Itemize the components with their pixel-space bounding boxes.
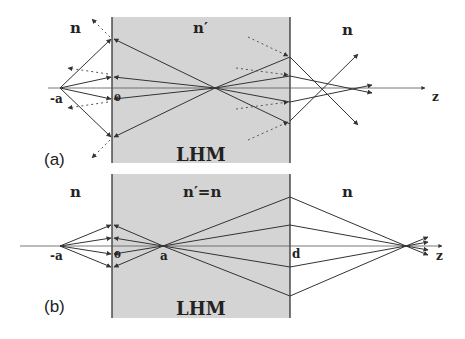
right-medium-label-b: n (342, 183, 353, 201)
panel-tag-b: (b) (44, 297, 65, 316)
left-medium-label-a: n (70, 19, 81, 37)
axis-label-a: z (432, 90, 439, 104)
right-medium-label-a: n (342, 21, 353, 39)
focus-label-b: a (160, 249, 168, 263)
panel-tag-a: (a) (44, 150, 65, 169)
lhm-lens-diagram: n n′ n LHM -a 0 z (a) (0, 0, 465, 339)
source-label-a: -a (50, 92, 63, 106)
source-label-b: -a (50, 249, 63, 263)
exit-label-b: d (292, 247, 301, 261)
exit-rays-b (290, 197, 428, 296)
reflected-rays-a (68, 19, 110, 158)
axis-label-b: z (436, 249, 443, 263)
slab-medium-label-b: n′=n (183, 183, 221, 201)
slab-label-a: LHM (176, 144, 226, 165)
left-medium-label-b: n (70, 183, 81, 201)
slab-medium-label-a: n′ (193, 19, 208, 37)
exit-rays-a (290, 54, 372, 125)
origin-label-b: 0 (114, 249, 121, 260)
panel-b: n n′=n n LHM -a 0 a d z (b) (20, 174, 443, 319)
origin-label-a: 0 (114, 92, 121, 103)
slab-label-b: LHM (176, 298, 226, 319)
panel-a: n n′ n LHM -a 0 z (a) (44, 17, 439, 169)
